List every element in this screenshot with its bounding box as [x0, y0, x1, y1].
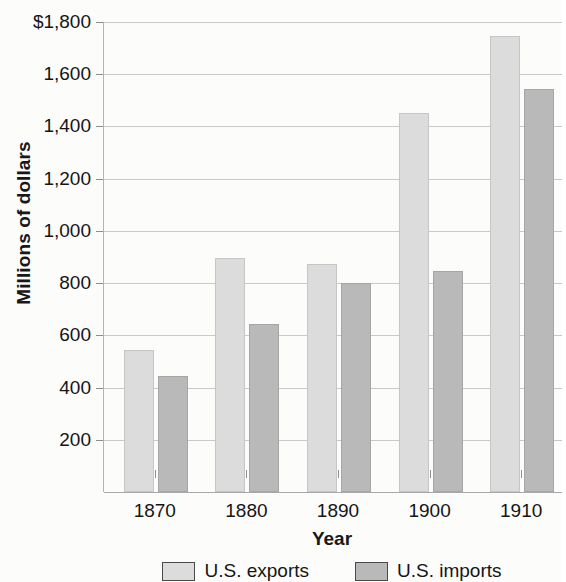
- bar-1890-imports: [341, 283, 371, 492]
- x-tick-mark: [430, 470, 431, 478]
- x-tick-mark: [338, 470, 339, 478]
- y-tick-label: 1,400: [0, 116, 91, 135]
- y-tick-label: 1,600: [0, 64, 91, 83]
- x-tick-mark: [155, 470, 156, 478]
- chart-legend: U.S. exportsU.S. imports: [103, 560, 561, 582]
- legend-label: U.S. imports: [397, 560, 502, 582]
- bar-1870-imports: [158, 376, 188, 492]
- gridline: [104, 22, 562, 23]
- legend-item-imports: U.S. imports: [355, 560, 502, 582]
- bar-1890-exports: [307, 264, 337, 492]
- y-tick-label: 1,200: [0, 169, 91, 188]
- y-tick-mark: [96, 388, 103, 389]
- bar-1870-exports: [124, 350, 154, 492]
- bar-1880-imports: [249, 324, 279, 492]
- y-tick-mark: [96, 440, 103, 441]
- legend-swatch-icon: [355, 562, 388, 581]
- y-tick-label: 800: [0, 273, 91, 292]
- plot-area: [103, 22, 562, 492]
- y-tick-mark: [96, 283, 103, 284]
- y-tick-label: $1,800: [0, 12, 91, 31]
- x-tick-mark: [246, 470, 247, 478]
- y-tick-mark: [96, 126, 103, 127]
- bar-1900-imports: [433, 271, 463, 492]
- x-axis-title: Year: [103, 528, 561, 550]
- bar-1910-imports: [524, 89, 554, 492]
- y-tick-label: 400: [0, 378, 91, 397]
- x-tick-label-1910: 1910: [466, 500, 566, 522]
- y-tick-mark: [96, 179, 103, 180]
- y-tick-label: 200: [0, 430, 91, 449]
- bar-1910-exports: [490, 36, 520, 492]
- x-tick-mark: [521, 470, 522, 478]
- y-tick-mark: [96, 231, 103, 232]
- bar-1900-exports: [399, 113, 429, 492]
- y-tick-mark: [96, 335, 103, 336]
- y-tick-label: 1,000: [0, 221, 91, 240]
- legend-item-exports: U.S. exports: [162, 560, 309, 582]
- y-tick-mark: [96, 74, 103, 75]
- axis-baseline: [104, 492, 562, 493]
- y-tick-label: 600: [0, 325, 91, 344]
- legend-swatch-icon: [162, 562, 195, 581]
- legend-label: U.S. exports: [204, 560, 309, 582]
- y-tick-mark: [96, 22, 103, 23]
- bar-1880-exports: [215, 258, 245, 492]
